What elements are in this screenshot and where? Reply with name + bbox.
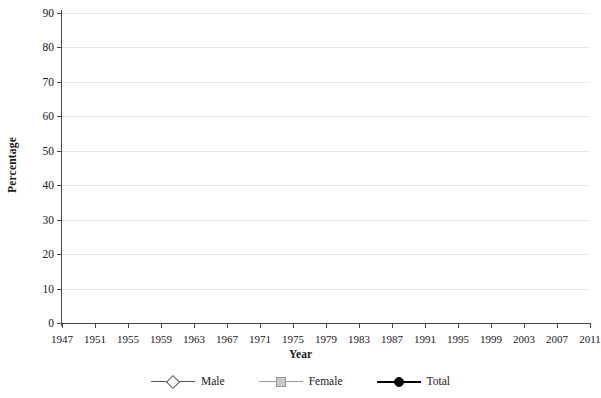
x-axis-tick-label: 1967 (216, 333, 238, 345)
x-axis-tick-label: 1979 (315, 333, 337, 345)
circle-marker-icon (377, 376, 421, 386)
y-axis-tick-label: 30 (26, 214, 54, 226)
diamond-marker-icon (151, 376, 195, 386)
x-axis-tick-label: 2011 (579, 333, 601, 345)
x-axis-title-label: Year (289, 348, 312, 360)
gridline (62, 47, 590, 48)
y-axis-line (61, 10, 62, 326)
x-axis-tick-label: 1983 (348, 333, 370, 345)
gridline (62, 254, 590, 255)
x-axis-tick-label: 1947 (51, 333, 73, 345)
y-axis-title: Percentage (2, 0, 22, 330)
legend-item-female[interactable]: Female (259, 375, 343, 387)
gridline (62, 13, 590, 14)
square-marker-icon (259, 376, 303, 386)
x-axis-tick-label: 1975 (282, 333, 304, 345)
y-axis-tick-label: 0 (26, 317, 54, 329)
line-chart: Percentage 0102030405060708090 194719511… (0, 0, 601, 398)
y-axis-tick-label: 20 (26, 248, 54, 260)
legend-item-male[interactable]: Male (151, 375, 225, 387)
x-axis-line (61, 323, 591, 324)
x-axis-tick-label: 2007 (546, 333, 568, 345)
plot-area: 0102030405060708090 19471951195519591963… (62, 13, 590, 323)
x-axis-tick-label: 1999 (480, 333, 502, 345)
x-axis-tick-label: 1995 (447, 333, 469, 345)
gridline (62, 289, 590, 290)
y-axis-tick-label: 50 (26, 145, 54, 157)
x-axis-tick-label: 1963 (183, 333, 205, 345)
y-axis-tick-label: 90 (26, 7, 54, 19)
x-axis-tick-label: 1987 (381, 333, 403, 345)
y-axis-tick-label: 60 (26, 110, 54, 122)
legend-label: Total (427, 375, 450, 387)
legend-item-total[interactable]: Total (377, 375, 450, 387)
legend-label: Female (309, 375, 343, 387)
y-axis-tick-label: 10 (26, 283, 54, 295)
gridline (62, 116, 590, 117)
x-axis-title: Year (0, 348, 601, 360)
legend-label: Male (201, 375, 225, 387)
x-axis-tick-label: 2003 (513, 333, 535, 345)
y-axis-tick-label: 80 (26, 41, 54, 53)
gridline (62, 151, 590, 152)
x-axis-tick-label: 1991 (414, 333, 436, 345)
x-axis-tick-label: 1959 (150, 333, 172, 345)
chart-legend: MaleFemaleTotal (0, 375, 601, 387)
x-axis-tick-label: 1951 (84, 333, 106, 345)
x-axis-tick-label: 1971 (249, 333, 271, 345)
y-axis: 0102030405060708090 (62, 13, 590, 323)
gridline (62, 220, 590, 221)
gridline (62, 82, 590, 83)
x-axis-tick-label: 1955 (117, 333, 139, 345)
y-axis-tick-label: 70 (26, 76, 54, 88)
gridline (62, 185, 590, 186)
y-axis-tick-label: 40 (26, 179, 54, 191)
y-axis-title-label: Percentage (6, 137, 18, 193)
